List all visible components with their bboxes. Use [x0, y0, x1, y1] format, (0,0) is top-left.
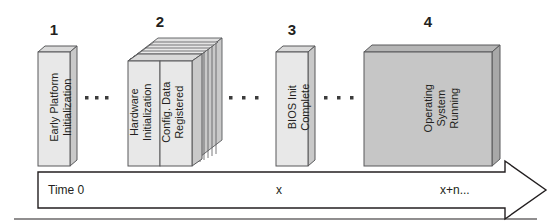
step-box-4-top-face — [364, 45, 500, 52]
diagram-canvas: 1 2 3 4 Early Platform Initialization Ha… — [0, 0, 551, 224]
ellipsis-dot — [85, 96, 89, 100]
step-box-1[interactable] — [38, 46, 77, 166]
ellipsis-dot — [242, 96, 246, 100]
time-tick-end: x+n... — [440, 184, 470, 196]
step-box-3[interactable] — [276, 46, 315, 166]
step-box-3-side-face — [308, 46, 315, 166]
step-box-2-front-panel-a — [128, 61, 160, 166]
step-number-3: 3 — [276, 22, 308, 37]
step-box-2-side-face — [192, 54, 202, 166]
step-number-4: 4 — [412, 14, 444, 29]
step-box-4-side-face — [492, 45, 500, 166]
ellipsis-dot — [324, 96, 328, 100]
time-axis-arrow — [38, 161, 546, 219]
ellipsis-dot — [337, 96, 341, 100]
step-number-2: 2 — [144, 14, 176, 29]
step-box-4[interactable] — [364, 45, 500, 166]
step-box-1-side-face — [70, 46, 77, 166]
ellipsis-dot — [229, 96, 233, 100]
step-box-1-front-face — [38, 52, 70, 166]
step-number-1: 1 — [38, 22, 70, 37]
ellipsis-1 — [85, 96, 109, 100]
time-tick-middle: x — [276, 184, 282, 196]
ellipsis-dot — [95, 96, 99, 100]
step-box-2-front-panel-b — [160, 61, 192, 166]
step-box-4-front-face — [364, 52, 492, 166]
step-box-2-top-face — [128, 54, 202, 61]
time-axis-arrow-shape — [38, 161, 546, 219]
ellipsis-dot — [105, 96, 109, 100]
step-box-3-front-face — [276, 52, 308, 166]
ellipsis-dot — [350, 96, 354, 100]
ellipsis-3 — [324, 96, 354, 100]
ellipsis-2 — [229, 96, 259, 100]
time-tick-start: Time 0 — [48, 184, 84, 196]
step-box-2[interactable] — [128, 38, 222, 166]
ellipsis-dot — [255, 96, 259, 100]
